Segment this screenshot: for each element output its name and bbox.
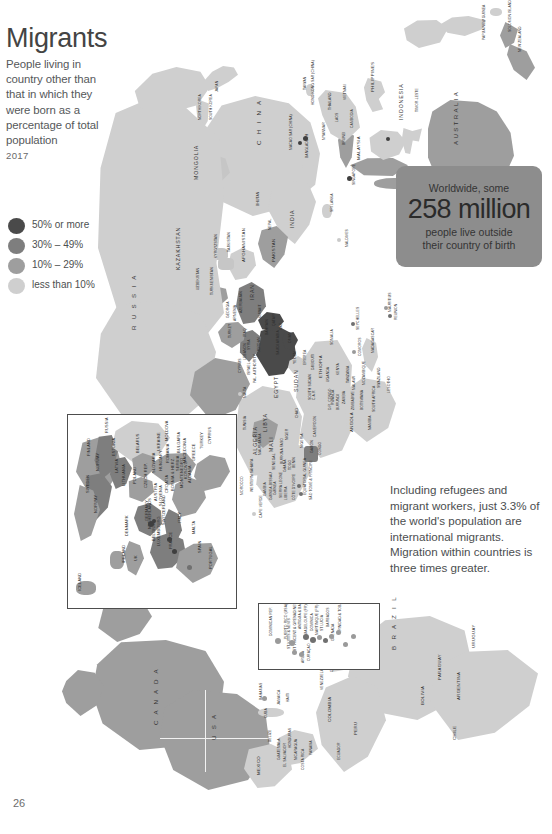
dot-andorra — [172, 549, 177, 554]
legend-swatch — [8, 258, 25, 274]
landmass-andean — [316, 676, 386, 772]
landmass-papua-new-guinea — [440, 16, 486, 36]
map-label: MYANMAR — [322, 122, 326, 140]
landmass-cuba — [258, 708, 284, 717]
legend-row: less than 10% — [8, 278, 112, 294]
dot-brunei — [386, 137, 390, 141]
map-label: MARTINIQUE (FR) — [315, 605, 319, 635]
page-number: 26 — [13, 797, 25, 809]
inset-landmass-ireland — [110, 551, 124, 569]
inset-landmass-uk — [124, 541, 144, 577]
map-label: HONG KONG SAR (CHINA) — [311, 60, 315, 105]
map-label: TURKEY — [199, 432, 204, 449]
stat-prefix: Worldwide, some — [429, 182, 509, 194]
europe-inset: RUSSIAFINLANDESTONIALATVIALITHUANIABELAR… — [67, 414, 237, 609]
map-label: JAMAICA — [277, 690, 281, 705]
map-label: GEORGIA — [226, 301, 230, 318]
map-label: CURAÇAO — [307, 643, 311, 661]
legend-row: 10% – 29% — [8, 258, 112, 274]
landmass-tajikistan — [218, 258, 234, 270]
dot-antigua-barbuda — [303, 634, 309, 640]
dot-puerto-rico — [289, 640, 295, 646]
dot-singapore — [347, 176, 352, 181]
landmass-central-america — [276, 730, 318, 766]
dot-bahamas — [262, 696, 267, 701]
title-block: Migrants People living in country other … — [6, 24, 110, 161]
map-label: CAPE VERDE — [259, 495, 263, 518]
dot-dominica — [317, 635, 322, 640]
map-label: SÃO TOMÉ & PRÍNCIPE — [309, 460, 313, 500]
page-title: Migrants — [6, 24, 110, 52]
map-label: COMOROS — [358, 337, 362, 356]
legend-swatch — [8, 238, 25, 254]
landmass-new-zealand-north — [500, 22, 518, 48]
dot-san-marino — [187, 565, 192, 570]
legend-label: 10% – 29% — [32, 258, 83, 272]
map-label: MALDIVES — [345, 229, 349, 247]
stat-suffix: people live outside their country of bir… — [423, 226, 516, 252]
map-label: URUGUAY — [471, 624, 476, 648]
stat-value: 258 million — [408, 195, 530, 224]
map-label: INDONESIA — [398, 83, 404, 120]
map-label: REUNION — [394, 304, 398, 320]
map-label: GREECE — [191, 443, 196, 461]
map-label: PAL. AUTHORITY — [253, 354, 257, 383]
legend-swatch — [8, 218, 25, 234]
note-paragraph: Including refugees and migrant workers, … — [390, 482, 548, 576]
inset-landmass-germany — [134, 503, 162, 537]
map-label: VENEZUELA — [320, 669, 324, 690]
map-label: ISRAEL — [247, 362, 251, 375]
legend-row: 50% or more — [8, 218, 112, 234]
landmass-indochina — [318, 90, 360, 142]
landmass-solomon-islands — [490, 8, 502, 16]
dot-liechtenstein — [152, 519, 156, 523]
legend-swatch — [8, 278, 25, 294]
map-label: ANTIGUA & BARBUDA — [298, 603, 302, 629]
landmass-sri-lanka — [322, 204, 332, 218]
dot-sao-tome — [299, 492, 303, 496]
landmass-borneo — [368, 130, 406, 160]
legend: 50% or more30% – 49%10% – 29%less than 1… — [8, 218, 112, 298]
map-label: SOUTH KOREA — [209, 94, 213, 120]
map-label: GUADELOUPE (FR) — [304, 604, 308, 637]
dot-st-vincent — [299, 652, 304, 657]
dot-st-lucia — [329, 634, 334, 639]
map-label: BULGARIA — [176, 432, 181, 453]
legend-row: 30% – 49% — [8, 238, 112, 254]
map-label: BARBADOS — [326, 607, 330, 627]
landmass-philippines — [362, 78, 386, 112]
map-label: MALTA — [191, 521, 196, 534]
dot-guadeloupe — [310, 637, 316, 643]
landmass-bangladesh — [302, 152, 314, 168]
map-label: HAITI — [286, 693, 290, 702]
landmass-southern-cone — [430, 650, 538, 740]
map-label: DOMINICA — [310, 613, 314, 631]
stat-suffix-line2: their country of birth — [423, 239, 516, 252]
map-label: SEYCHELLES — [356, 307, 360, 330]
landmass-sulawesi — [400, 128, 422, 154]
map-label: TIMOR-LESTE — [415, 88, 419, 112]
dot-monaco — [167, 537, 172, 542]
map-label: MALAYSIA — [356, 136, 361, 160]
dot-seychelles — [351, 322, 355, 326]
map-label: DENMARK — [124, 515, 129, 536]
dot-hong-kong — [303, 136, 308, 141]
inset-landmass-baltics — [110, 457, 132, 489]
landmass-russia-west — [96, 300, 216, 430]
legend-label: 30% – 49% — [32, 238, 83, 252]
dot-maldives — [337, 238, 341, 242]
landmass-new-zealand-south — [507, 44, 535, 80]
map-label: TAJIKISTAN — [227, 232, 231, 252]
map-label: MOROCCO — [240, 476, 244, 495]
legend-label: 50% or more — [32, 218, 89, 232]
border-line — [160, 738, 270, 739]
map-label: PUERTO RICO (USA) — [284, 604, 288, 639]
map-label: DOMINICAN REP. — [269, 607, 273, 636]
map-label: TRINIDAD & TOBAGO — [338, 603, 342, 633]
map-label: SLOVENIA — [158, 485, 163, 506]
dot-martinique — [323, 638, 328, 643]
dot-reunion — [388, 314, 392, 318]
border-line — [205, 690, 206, 772]
inset-landmass-poland — [126, 477, 154, 503]
page-subtitle: People living in country other than that… — [6, 57, 110, 148]
